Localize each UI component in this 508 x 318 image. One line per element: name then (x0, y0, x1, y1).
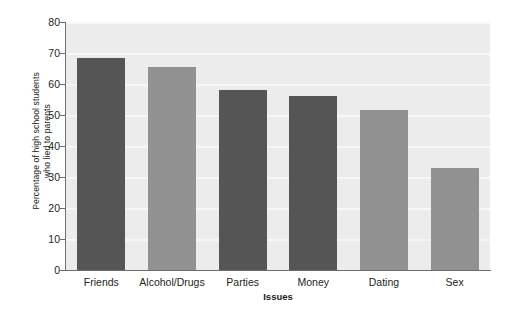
y-axis-tick-label: 0 (30, 265, 60, 275)
bar (431, 168, 479, 270)
bar (360, 110, 408, 270)
y-axis-tick-label: 50 (30, 110, 60, 120)
x-axis-tick-label: Parties (208, 276, 277, 288)
bar (77, 58, 125, 270)
y-axis-tick-label: 80 (30, 17, 60, 27)
x-axis-tick-label: Alcohol/Drugs (137, 276, 206, 288)
x-axis-tick-label: Money (279, 276, 348, 288)
y-axis-tick-label: 30 (30, 172, 60, 182)
x-axis-tick-labels: FriendsAlcohol/DrugsPartiesMoneyDatingSe… (66, 276, 490, 288)
y-axis-tick-label: 20 (30, 203, 60, 213)
y-axis-tick-label: 10 (30, 234, 60, 244)
plot-area (66, 22, 490, 270)
y-axis-tick-label: 60 (30, 79, 60, 89)
x-axis-tick-label: Sex (420, 276, 489, 288)
bar-chart-figure: Percentage of high school students who l… (0, 0, 508, 318)
bars-series (66, 22, 490, 270)
y-axis-tick-label: 40 (30, 141, 60, 151)
x-axis-line (65, 270, 491, 271)
bar (219, 90, 267, 270)
x-axis-title: Issues (66, 291, 490, 302)
x-axis-tick-label: Dating (349, 276, 418, 288)
bar (289, 96, 337, 270)
x-axis-tick-label: Friends (67, 276, 136, 288)
y-axis-tick-label: 70 (30, 48, 60, 58)
bar (148, 67, 196, 270)
y-axis-tick-labels: 01020304050607080 (30, 22, 60, 270)
